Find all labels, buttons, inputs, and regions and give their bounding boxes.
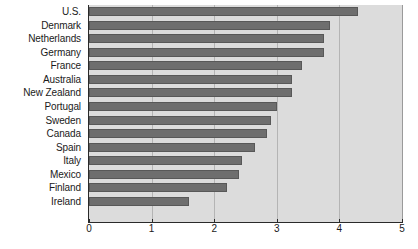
bar-row — [89, 32, 402, 46]
bar-chart: U.S. Denmark Netherlands Germany France … — [0, 0, 418, 249]
y-axis-label: New Zealand — [0, 86, 85, 100]
y-axis-label: Spain — [0, 141, 85, 155]
bar-row — [89, 114, 402, 128]
bar-row — [89, 141, 402, 155]
y-axis-label: Denmark — [0, 19, 85, 33]
y-axis-label: Sweden — [0, 114, 85, 128]
bar-row — [89, 5, 402, 19]
y-axis-label: Germany — [0, 46, 85, 60]
plot-area — [89, 5, 403, 222]
x-axis-tick-label: 1 — [137, 223, 167, 234]
bar — [89, 7, 358, 16]
bar — [89, 156, 242, 165]
bar — [89, 129, 267, 138]
bar-series — [89, 5, 402, 222]
bar — [89, 61, 302, 70]
bar — [89, 102, 277, 111]
bar — [89, 197, 189, 206]
bar — [89, 183, 227, 192]
y-axis-label: Ireland — [0, 195, 85, 209]
bar — [89, 88, 292, 97]
bar-row — [89, 59, 402, 73]
bar-row — [89, 195, 402, 209]
bar-row — [89, 46, 402, 60]
bar — [89, 143, 255, 152]
bar-row — [89, 19, 402, 33]
y-axis-label: Australia — [0, 73, 85, 87]
y-axis-label: Portugal — [0, 100, 85, 114]
bar-row — [89, 168, 402, 182]
x-axis-tick-labels: 012345 — [89, 223, 402, 243]
y-axis-label: Netherlands — [0, 32, 85, 46]
y-axis-line — [88, 5, 89, 223]
x-axis-tick-label: 2 — [199, 223, 229, 234]
bar — [89, 116, 271, 125]
y-axis-label: France — [0, 59, 85, 73]
bar-row — [89, 181, 402, 195]
bar — [89, 170, 239, 179]
y-axis-label: U.S. — [0, 5, 85, 19]
x-axis-tick-label: 3 — [262, 223, 292, 234]
bar — [89, 48, 324, 57]
x-axis-tick-label: 5 — [387, 223, 417, 234]
bar-row — [89, 73, 402, 87]
x-axis-tick-label: 0 — [74, 223, 104, 234]
y-axis-label: Italy — [0, 154, 85, 168]
x-axis-tick-label: 4 — [324, 223, 354, 234]
bar — [89, 34, 324, 43]
bar-row — [89, 127, 402, 141]
bar — [89, 75, 292, 84]
y-axis-label: Finland — [0, 181, 85, 195]
bar-row — [89, 154, 402, 168]
y-axis-label: Mexico — [0, 168, 85, 182]
y-axis-label: Canada — [0, 127, 85, 141]
y-axis-category-labels: U.S. Denmark Netherlands Germany France … — [0, 5, 85, 222]
bar — [89, 21, 330, 30]
bar-row — [89, 100, 402, 114]
bar-row — [89, 86, 402, 100]
